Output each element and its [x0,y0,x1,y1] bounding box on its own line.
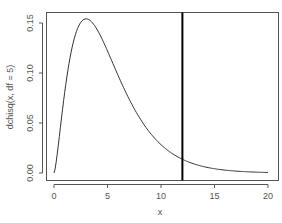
y-tick-label: 0.10 [25,64,35,82]
x-axis: 05101520 [51,185,273,202]
x-axis-label: x [158,207,163,217]
y-tick-label: 0.05 [25,114,35,132]
y-tick-label: 0.15 [25,14,35,32]
y-tick-label: 0.00 [25,164,35,182]
x-tick-label: 10 [156,191,166,201]
chisq-density-plot: 05101520 0.000.050.100.15 x dchisq(x, df… [0,0,282,223]
density-curve [54,19,268,173]
x-tick-label: 0 [51,191,56,201]
y-axis-label: dchisq(x, df = 5) [5,65,15,129]
x-tick-label: 15 [209,191,219,201]
x-tick-label: 5 [105,191,110,201]
plot-box [47,13,279,181]
x-tick-label: 20 [263,191,273,201]
y-axis: 0.000.050.100.15 [25,14,43,182]
